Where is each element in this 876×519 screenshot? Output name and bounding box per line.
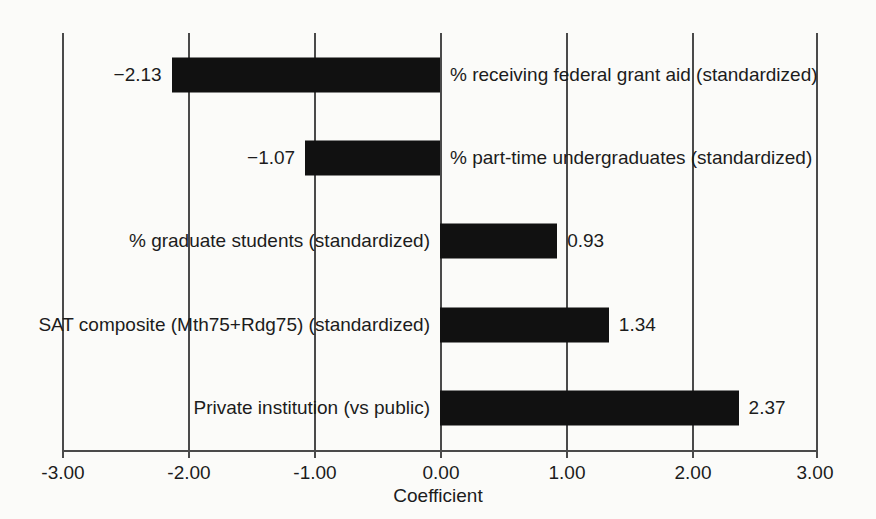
bar-label: % part-time undergraduates (standardized… [450,147,812,169]
bar [305,141,440,176]
coefficient-bar-chart: % receiving federal grant aid (standardi… [0,0,876,519]
bar-value-label: −2.13 [114,64,162,86]
x-tick--2 [188,450,190,458]
bar [440,307,609,342]
x-tick-3 [816,450,818,458]
bar-value-label: 0.93 [567,230,604,252]
plot-area: % receiving federal grant aid (standardi… [62,33,818,450]
x-tick-1 [566,450,568,458]
bar-label: Private institution (vs public) [193,397,430,419]
x-tick-0 [440,450,442,458]
bar-label: SAT composite (Mth75+Rdg75) (standardize… [38,314,430,336]
bar [440,391,739,426]
x-tick--3 [62,450,64,458]
bar-label: % receiving federal grant aid (standardi… [450,64,818,86]
x-axis-title: Coefficient [0,485,876,507]
x-tick-label--2: -2.00 [167,462,210,484]
x-tick-2 [692,450,694,458]
bar-value-label: 1.34 [619,314,656,336]
x-tick-label-3: 3.00 [797,462,834,484]
x-tick-label--1: -1.00 [293,462,336,484]
bar [440,224,557,259]
x-tick--1 [314,450,316,458]
bar-row: % part-time undergraduates (standardized… [62,116,818,199]
x-tick-label-2: 2.00 [675,462,712,484]
bar-row: SAT composite (Mth75+Rdg75) (standardize… [62,283,818,366]
x-tick-label-1: 1.00 [549,462,586,484]
x-tick-label-0: 0.00 [423,462,460,484]
bar-value-label: 2.37 [749,397,786,419]
bar-row: % receiving federal grant aid (standardi… [62,33,818,116]
bar-row: Private institution (vs public) 2.37 [62,367,818,450]
bar-label: % graduate students (standardized) [129,230,430,252]
bar [172,57,440,92]
bar-row: % graduate students (standardized) 0.93 [62,200,818,283]
bar-value-label: −1.07 [247,147,295,169]
x-tick-label--3: -3.00 [41,462,84,484]
